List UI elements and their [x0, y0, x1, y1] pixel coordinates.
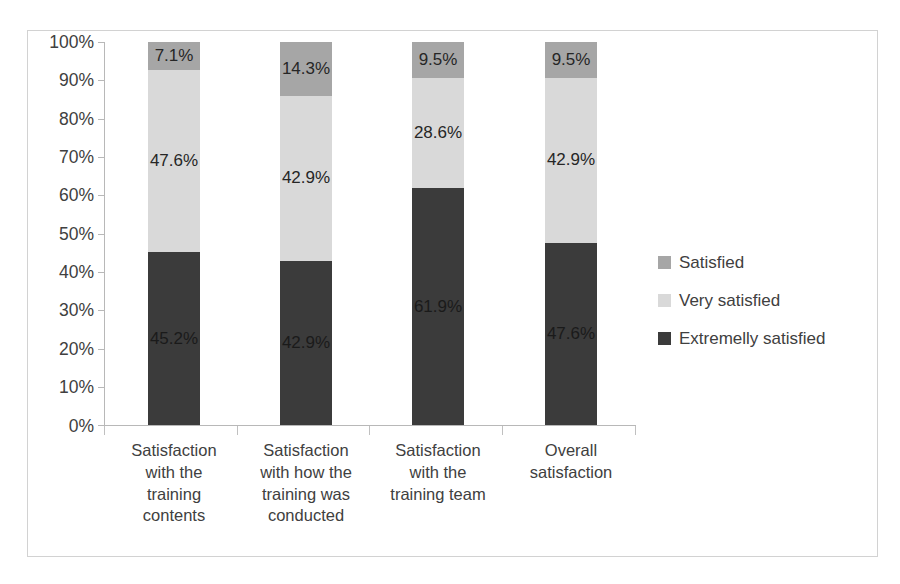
x-axis-category-label: Overall satisfaction: [496, 440, 646, 484]
y-axis-tick-label: 90%: [59, 72, 94, 90]
y-axis-tick-label: 40%: [59, 264, 94, 282]
legend-item-label: Satisfied: [679, 254, 744, 271]
category-label-line: conducted: [231, 505, 381, 527]
bar-segment-value-label: 42.9%: [280, 334, 332, 351]
bar-segment-very-satisfied[interactable]: 42.9%: [545, 78, 597, 242]
bar-segment-value-label: 42.9%: [280, 169, 332, 186]
bar-segment-very-satisfied[interactable]: 42.9%: [280, 96, 332, 260]
chart-root: 100% 90% 80% 70% 60% 50% 40% 30% 20% 10%…: [0, 0, 900, 584]
bar-stack[interactable]: 14.3% 42.9% 42.9%: [280, 42, 332, 425]
bar-segment-value-label: 61.9%: [412, 298, 464, 315]
y-axis-tick-label: 0%: [69, 418, 94, 436]
legend-swatch-icon: [658, 294, 671, 307]
y-axis-tick-label: 70%: [59, 149, 94, 167]
category-label-line: with the: [363, 462, 513, 484]
category-label-line: training team: [363, 484, 513, 506]
legend-swatch-icon: [658, 256, 671, 269]
bar-segment-satisfied[interactable]: 9.5%: [545, 42, 597, 78]
legend-swatch-icon: [658, 332, 671, 345]
y-axis-tick-label: 80%: [59, 111, 94, 129]
bar-segment-value-label: 14.3%: [280, 60, 332, 77]
category-label-line: Satisfaction: [99, 440, 249, 462]
category-label-line: Satisfaction: [231, 440, 381, 462]
legend-item-extremelly-satisfied[interactable]: Extremelly satisfied: [658, 319, 873, 357]
legend-item-label: Very satisfied: [679, 292, 780, 309]
category-label-line: training: [99, 484, 249, 506]
category-label-line: with how the: [231, 462, 381, 484]
bar-segment-very-satisfied[interactable]: 47.6%: [148, 70, 200, 252]
x-axis-category-label: Satisfaction with the training team: [363, 440, 513, 505]
bar-segment-extremelly-satisfied[interactable]: 47.6%: [545, 243, 597, 425]
y-axis-tick-label: 50%: [59, 226, 94, 244]
y-axis-tick-label: 100%: [49, 34, 94, 52]
bar-segment-value-label: 9.5%: [545, 51, 597, 68]
y-axis-tick-label: 30%: [59, 302, 94, 320]
legend-item-label: Extremelly satisfied: [679, 330, 825, 347]
bar-segment-extremelly-satisfied[interactable]: 61.9%: [412, 188, 464, 425]
legend-item-satisfied[interactable]: Satisfied: [658, 243, 873, 281]
bar-segment-extremelly-satisfied[interactable]: 42.9%: [280, 261, 332, 425]
bar-stack[interactable]: 7.1% 47.6% 45.2%: [148, 42, 200, 425]
legend-item-very-satisfied[interactable]: Very satisfied: [658, 281, 873, 319]
bar-segment-value-label: 47.6%: [545, 325, 597, 342]
y-axis-tick-labels: 100% 90% 80% 70% 60% 50% 40% 30% 20% 10%…: [0, 0, 94, 584]
bar-segment-value-label: 28.6%: [412, 124, 464, 141]
category-label-line: Overall: [496, 440, 646, 462]
category-label-line: with the: [99, 462, 249, 484]
bar-segment-satisfied[interactable]: 14.3%: [280, 42, 332, 97]
x-axis-category-label: Satisfaction with the training contents: [99, 440, 249, 527]
x-axis-category-label: Satisfaction with how the training was c…: [231, 440, 381, 527]
bar-segment-value-label: 9.5%: [412, 51, 464, 68]
y-axis-tick-label: 20%: [59, 341, 94, 359]
bar-segment-extremelly-satisfied[interactable]: 45.2%: [148, 252, 200, 425]
category-label-line: training was: [231, 484, 381, 506]
x-axis-divider: [104, 426, 105, 435]
bar-stack[interactable]: 9.5% 28.6% 61.9%: [412, 42, 464, 425]
category-label-line: satisfaction: [496, 462, 646, 484]
x-axis-divider: [237, 426, 238, 435]
y-axis-tick-label: 10%: [59, 379, 94, 397]
category-label-line: contents: [99, 505, 249, 527]
x-axis-divider: [369, 426, 370, 435]
category-label-line: Satisfaction: [363, 440, 513, 462]
bar-segment-very-satisfied[interactable]: 28.6%: [412, 78, 464, 188]
bar-segment-value-label: 47.6%: [148, 152, 200, 169]
plot-area: 7.1% 47.6% 45.2% 14.3% 42.9% 42.9% 9: [105, 42, 635, 425]
bar-segment-satisfied[interactable]: 7.1%: [148, 42, 200, 69]
bar-segment-satisfied[interactable]: 9.5%: [412, 42, 464, 78]
bar-segment-value-label: 42.9%: [545, 151, 597, 168]
x-axis-divider: [502, 426, 503, 435]
bar-segment-value-label: 45.2%: [148, 330, 200, 347]
bar-stack[interactable]: 9.5% 42.9% 47.6%: [545, 42, 597, 425]
x-axis-divider: [635, 426, 636, 435]
y-axis-tick-label: 60%: [59, 187, 94, 205]
x-axis-line: [104, 425, 636, 426]
chart-legend: Satisfied Very satisfied Extremelly sati…: [658, 243, 873, 357]
bar-segment-value-label: 7.1%: [148, 47, 200, 64]
